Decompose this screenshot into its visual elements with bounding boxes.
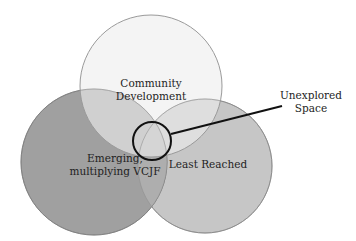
label-community-development: Community Development [106, 77, 196, 103]
label-least-line1: Least Reached [168, 158, 248, 171]
label-least-reached: Least Reached [168, 158, 248, 171]
label-emerging-multiplying: Emerging, multiplying VCJF [60, 152, 170, 178]
venn-diagram [0, 0, 356, 241]
label-emerging-line2: multiplying VCJF [60, 165, 170, 178]
label-community-line1: Community [106, 77, 196, 90]
label-unexplored-space: Unexplored Space [276, 89, 346, 115]
label-unexplored-line1: Unexplored [276, 89, 346, 102]
label-emerging-line1: Emerging, [60, 152, 170, 165]
label-unexplored-line2: Space [276, 102, 346, 115]
label-community-line2: Development [106, 90, 196, 103]
